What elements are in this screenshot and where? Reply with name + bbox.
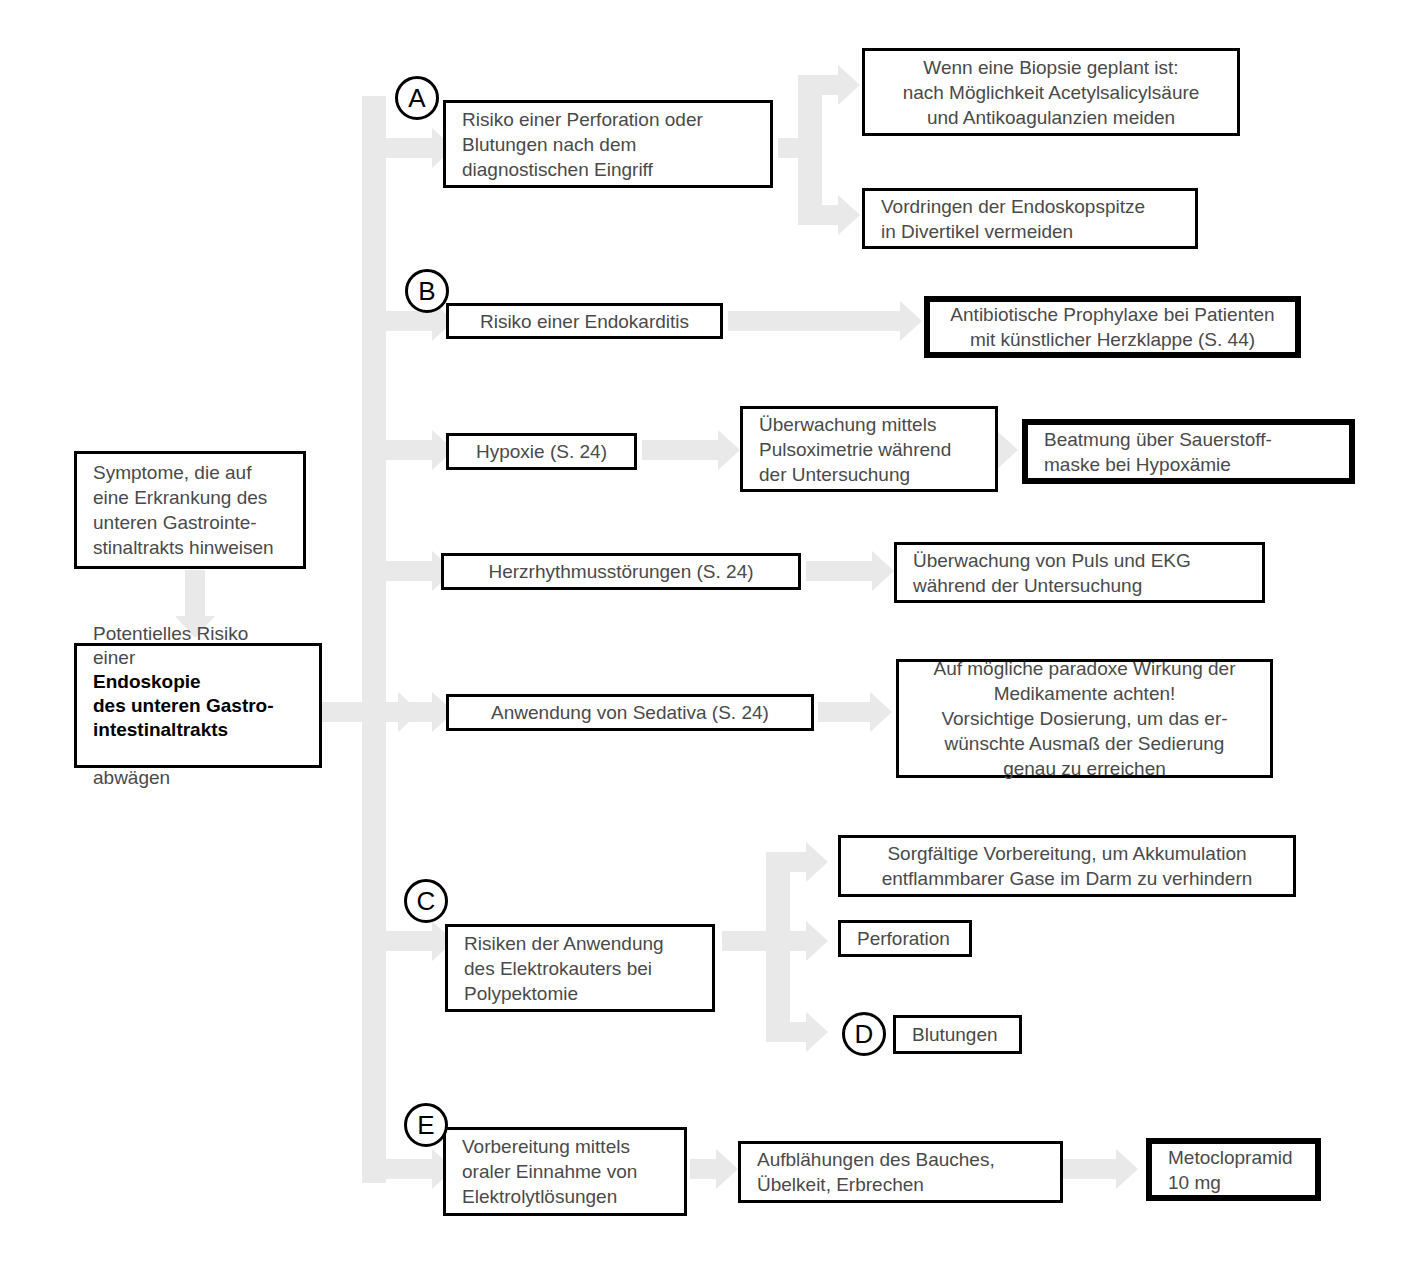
box-b-action-1: Antibiotische Prophylaxe bei Patienten m… [924, 296, 1301, 358]
box-hypoxie-risk: Hypoxie (S. 24) [446, 433, 637, 470]
arrow-a-fork-stem [778, 138, 822, 158]
arrow-main-to-spine [322, 692, 420, 732]
marker-a: A [395, 76, 439, 120]
marker-e: E [404, 1103, 448, 1147]
spine-vertical [362, 96, 386, 1183]
box-sedativa-risk: Anwendung von Sedativa (S. 24) [446, 694, 814, 731]
box-e-risk: Vorbereitung mittels oraler Einnahme von… [443, 1127, 687, 1216]
box-c-action-3: Blutungen [893, 1015, 1022, 1054]
arrow-e-to-action1 [690, 1149, 738, 1189]
marker-d: D [842, 1012, 886, 1056]
spine-elbow-e [362, 1159, 386, 1183]
box-c-action-2: Perforation [838, 920, 972, 957]
arrow-a-to-action1 [798, 65, 860, 105]
marker-c: C [404, 879, 448, 923]
arrow-a-fork-vertical [798, 75, 822, 225]
arrow-spine-to-e [362, 1149, 454, 1189]
risk-intro-text: Potentielles Risiko einer [93, 622, 248, 670]
box-b-risk: Risiko einer Endokarditis [446, 303, 723, 339]
arrow-e-action1-to-action2 [1063, 1149, 1138, 1189]
box-c-action-1: Sorgfältige Vorbereitung, um Akkumulatio… [838, 835, 1296, 897]
arrow-c-to-action2 [766, 921, 828, 961]
box-c-risk: Risiken der Anwendung des Elektrokauters… [445, 924, 715, 1012]
arrow-c-to-action1 [766, 842, 828, 882]
arrow-spine-to-hypoxie [386, 430, 454, 470]
box-e-action-2: Metoclopramid 10 mg [1146, 1138, 1321, 1201]
arrow-spine-to-sedativa [386, 692, 454, 732]
box-potential-risk: Potentielles Risiko einer Endoskopie des… [74, 643, 322, 768]
arrow-c-fork-vertical [766, 852, 790, 1042]
box-a-action-2: Vordringen der Endoskopspitze in Diverti… [862, 188, 1198, 249]
arrow-spine-to-c [386, 921, 454, 961]
box-e-action-1: Aufblähungen des Bauches, Übelkeit, Erbr… [738, 1141, 1063, 1203]
risk-bold-text: Endoskopie des unteren Gastro- intestina… [93, 670, 274, 742]
flowchart-canvas: Symptome, die auf eine Erkrankung des un… [0, 0, 1410, 1273]
arrow-c-to-action3 [766, 1012, 828, 1052]
box-sedativa-action-1: Auf mögliche paradoxe Wirkung der Medika… [896, 659, 1273, 778]
arrow-b-to-action1 [728, 301, 922, 341]
arrow-a-to-action2 [798, 195, 860, 235]
box-hypoxie-action-1: Überwachung mittels Pulsoximetrie währen… [740, 406, 998, 492]
box-a-action-1: Wenn eine Biopsie geplant ist: nach Mögl… [862, 48, 1240, 136]
marker-b: B [405, 269, 449, 313]
box-arrhythmia-risk: Herzrhythmusstörungen (S. 24) [441, 553, 801, 590]
arrow-hypoxie-to-action1 [642, 430, 740, 470]
arrow-arrhythmia-to-action1 [806, 551, 894, 591]
risk-outro-text: abwägen [93, 742, 170, 790]
arrow-c-fork-stem [722, 931, 766, 951]
box-symptoms: Symptome, die auf eine Erkrankung des un… [74, 451, 306, 569]
box-arrhythmia-action-1: Überwachung von Puls und EKG während der… [894, 542, 1265, 603]
box-hypoxie-action-2: Beatmung über Sauerstoff- maske bei Hypo… [1022, 419, 1355, 484]
arrow-sedativa-to-action1 [818, 692, 892, 732]
box-a-risk: Risiko einer Perforation oder Blutungen … [443, 100, 773, 188]
